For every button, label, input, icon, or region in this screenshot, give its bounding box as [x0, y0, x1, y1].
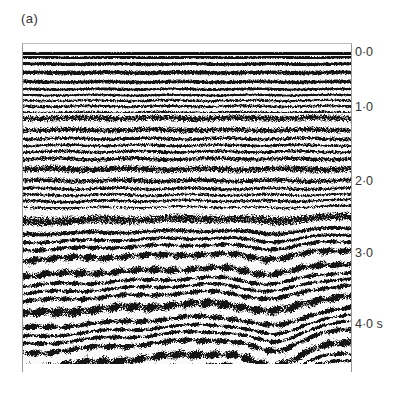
time-tick-4: 4·0 s: [355, 317, 383, 331]
time-tick-0: 0·0: [355, 45, 373, 59]
panel-label: (a): [21, 11, 38, 26]
time-tick-2: 2·0: [355, 174, 373, 188]
time-tick-1: 1·0: [355, 100, 373, 114]
seismic-section-image: [23, 50, 351, 364]
time-tick-3: 3·0: [355, 246, 373, 260]
